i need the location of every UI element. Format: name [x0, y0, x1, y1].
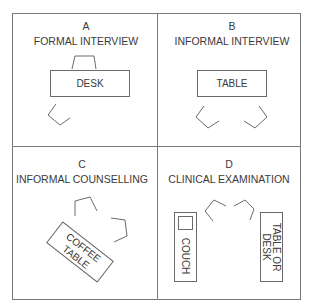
- panel-d-title: CLINICAL EXAMINATION: [168, 173, 289, 185]
- panel-b-letter: B: [228, 20, 235, 32]
- panel-c-informal-counselling: C INFORMAL COUNSELLING COFFEE TABLE: [16, 158, 148, 282]
- couch-label: COUCH: [180, 238, 191, 275]
- panel-c-letter: C: [78, 158, 86, 170]
- desk-label: DESK: [76, 78, 104, 89]
- chair-icon: [75, 197, 97, 216]
- chair-icon: [48, 104, 70, 125]
- chair-icon: [205, 200, 226, 221]
- chair-icon: [72, 56, 96, 69]
- panel-a-letter: A: [82, 20, 89, 32]
- panel-d-clinical-examination: D CLINICAL EXAMINATION COUCH TABLE OR DE…: [168, 158, 289, 282]
- outer-border: [13, 14, 301, 300]
- couch-pillow: [179, 217, 193, 230]
- panel-b-informal-interview: B INFORMAL INTERVIEW TABLE: [175, 20, 290, 128]
- panel-a-title: FORMAL INTERVIEW: [34, 35, 139, 47]
- panel-b-title: INFORMAL INTERVIEW: [175, 35, 290, 47]
- chair-icon: [244, 106, 267, 128]
- panel-d-letter: D: [225, 158, 233, 170]
- grid-frame: [13, 14, 301, 300]
- coffee-table-shape: COFFEE TABLE: [47, 222, 113, 282]
- chair-icon: [234, 200, 254, 220]
- chair-icon: [196, 106, 219, 128]
- table-label: TABLE: [217, 78, 248, 89]
- seating-arrangements-diagram: A FORMAL INTERVIEW DESK B INFORMAL INTER…: [0, 0, 309, 307]
- chair-icon: [111, 218, 127, 242]
- panel-a-formal-interview: A FORMAL INTERVIEW DESK: [34, 20, 139, 125]
- table-or-desk-label-line2: DESK: [261, 233, 272, 261]
- panel-c-title: INFORMAL COUNSELLING: [16, 173, 148, 185]
